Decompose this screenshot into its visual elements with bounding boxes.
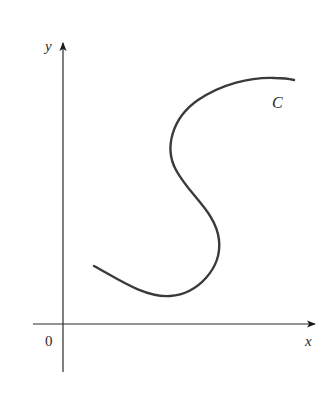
- curve-label: C: [272, 94, 283, 111]
- origin-label: 0: [45, 333, 53, 349]
- y-axis-label: y: [43, 38, 52, 54]
- x-axis-label: x: [304, 333, 312, 349]
- curve-c: [94, 78, 294, 296]
- diagram-canvas: y x 0 C: [0, 0, 335, 394]
